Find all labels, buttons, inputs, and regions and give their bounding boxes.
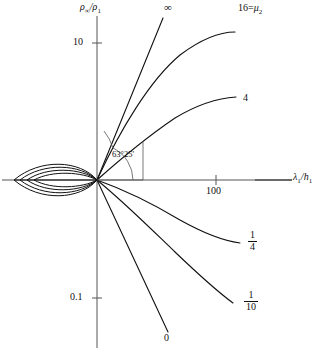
angle-label: 63°25' (112, 150, 134, 159)
curve-label-16-mu2: 16=μ2 (238, 3, 262, 16)
chart-canvas (0, 0, 316, 359)
lens-loops-group (14, 164, 97, 196)
x-axis-title-h-sub: 1 (309, 177, 313, 185)
curve-label-4: 4 (243, 93, 248, 103)
curve-label-one-tenth: 1 10 (244, 290, 258, 312)
mu-legend-value: 16 (238, 2, 248, 13)
mu-legend-sub: 2 (259, 8, 263, 16)
x-axis-title: λ1/h1 (293, 172, 312, 185)
y-tick-label-0-1: 0.1 (70, 292, 83, 302)
figure-container: ρ∞/ρ1 λ1/h1 10 0.1 100 63°25' ∞ 16=μ2 4 … (0, 0, 316, 359)
x-tick-label-100: 100 (206, 186, 221, 196)
fraction-one-quarter: 1 4 (248, 230, 257, 252)
lower-curves-group (97, 180, 240, 332)
curve-label-one-quarter: 1 4 (248, 230, 257, 252)
y-axis-title: ρ∞/ρ1 (80, 2, 101, 15)
curve-label-0: 0 (164, 333, 169, 343)
fraction-one-quarter-numerator: 1 (248, 230, 257, 241)
fraction-one-tenth-denominator: 10 (244, 301, 258, 313)
curve-one-tenth (97, 180, 233, 303)
y-tick-label-10: 10 (73, 37, 83, 47)
curve-label-infinity: ∞ (164, 2, 172, 13)
fraction-one-tenth: 1 10 (244, 290, 258, 312)
fraction-one-quarter-denominator: 4 (248, 241, 257, 253)
y-axis-title-rho1-sub: 1 (97, 7, 101, 15)
ticks-group (92, 43, 216, 298)
fraction-one-tenth-numerator: 1 (244, 290, 258, 301)
curve-zero (97, 180, 168, 332)
